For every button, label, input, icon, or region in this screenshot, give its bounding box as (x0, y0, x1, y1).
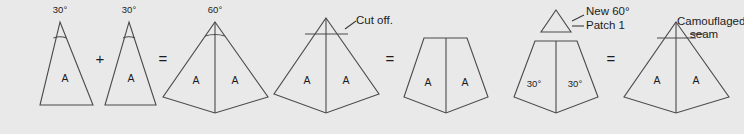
gore-2-piece-label: A (127, 72, 134, 84)
cone-cutoff-piece-label-right: A (342, 74, 349, 86)
construction-diagram: 30° A + 30° A = 60° A A Cut (0, 0, 744, 134)
diagram-canvas: 30° A + 30° A = 60° A A Cut (0, 0, 744, 134)
gore-1-piece-label: A (61, 72, 68, 84)
cone-cutoff-piece-label-left: A (303, 74, 310, 86)
shape-first-30-degree-gore: 30° A (40, 4, 93, 105)
new-patch-triangle (541, 10, 571, 32)
shape-truncated-cone: A A (404, 38, 488, 113)
cut-off-note: Cut off. (356, 14, 393, 26)
cut-off-leader-line (345, 21, 356, 29)
cone-60-angle-label: 60° (208, 4, 223, 15)
patched-cone-angle-label-right: 30° (568, 78, 583, 89)
gore-2-angle-label: 30° (122, 4, 137, 15)
new-patch-note-line-2: Patch 1 (586, 19, 625, 31)
cone-60-piece-label-right: A (231, 74, 238, 86)
shape-cone-with-cut-line: Cut off. A A (274, 14, 393, 113)
shape-final-cone-with-camouflaged-seam: Camouflaged seam A A (624, 15, 744, 113)
final-cone-piece-label-left: A (653, 74, 660, 86)
new-patch-leader-line-1 (572, 15, 584, 21)
equals-operator-1: = (159, 50, 168, 67)
shape-second-30-degree-gore: 30° A (105, 4, 156, 105)
patched-cone-angle-label-left: 30° (527, 78, 542, 89)
cone-60-piece-label-left: A (192, 74, 199, 86)
gore-2-outline (105, 22, 156, 105)
final-cone-piece-label-right: A (692, 74, 699, 86)
plus-operator: + (96, 50, 105, 67)
equals-operator-2: = (386, 50, 395, 67)
truncated-cone-piece-label-left: A (424, 76, 431, 88)
camouflaged-seam-note-line-1: Camouflaged (677, 15, 744, 27)
equals-operator-3: = (607, 50, 616, 67)
new-patch-note-line-1: New 60° (586, 5, 630, 17)
shape-joined-60-degree-cone: 60° A A (163, 4, 268, 113)
camouflaged-seam-note-line-2: seam (690, 28, 718, 40)
gore-1-angle-label: 30° (53, 4, 68, 15)
gore-1-outline (40, 22, 93, 105)
truncated-cone-piece-label-right: A (461, 76, 468, 88)
